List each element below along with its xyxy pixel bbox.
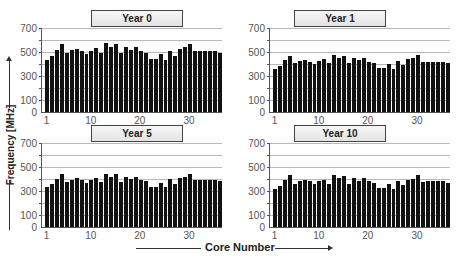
bar (288, 175, 292, 227)
bar (337, 58, 341, 112)
bar (159, 54, 163, 112)
y-tick-mark (267, 179, 270, 180)
bar (347, 63, 351, 112)
bar (342, 56, 346, 112)
y-tick-label: 300 (235, 186, 265, 197)
bar (129, 179, 133, 227)
bar (124, 47, 128, 112)
bar (303, 180, 307, 227)
bar (317, 61, 321, 112)
x-axis-label: Core Number (130, 241, 330, 255)
bar (134, 47, 138, 112)
bar (94, 48, 98, 112)
bar (313, 184, 317, 227)
bar (80, 51, 84, 112)
y-tick-mark (39, 76, 42, 77)
bar (411, 58, 415, 112)
y-tick-label: 700 (7, 138, 37, 149)
y-tick-mark (39, 203, 42, 204)
bar (85, 54, 89, 112)
bar (134, 177, 138, 227)
x-axis-label-line-right (275, 248, 330, 249)
bar (188, 174, 192, 227)
bar (401, 65, 405, 112)
bar (411, 179, 415, 227)
bar (273, 189, 277, 227)
x-tick-label: 30 (183, 115, 194, 126)
bar (149, 59, 153, 112)
y-tick-mark (267, 143, 270, 144)
bar (203, 180, 207, 227)
bar (55, 50, 59, 112)
y-tick-mark (267, 203, 270, 204)
y-tick-mark (39, 64, 42, 65)
bar (173, 184, 177, 227)
bar (208, 51, 212, 112)
bar (94, 178, 98, 227)
x-tick-label: 1 (272, 115, 278, 126)
bar (446, 63, 450, 112)
y-tick-mark (267, 155, 270, 156)
bar (119, 53, 123, 112)
bar (75, 178, 79, 227)
bar (342, 176, 346, 227)
bar (382, 68, 386, 112)
bar (278, 186, 282, 227)
bar (298, 181, 302, 227)
bar (178, 49, 182, 112)
bar (80, 180, 84, 227)
y-tick-mark (39, 167, 42, 168)
bar-series (273, 28, 450, 112)
y-tick-mark (39, 179, 42, 180)
bar (322, 59, 326, 112)
y-tick-mark (267, 76, 270, 77)
bar (293, 184, 297, 227)
bar (65, 53, 69, 112)
bar (436, 62, 440, 112)
bar (421, 182, 425, 227)
y-tick-mark (39, 215, 42, 216)
chart-title: Year 10 (294, 125, 386, 142)
bar (303, 60, 307, 112)
bar (85, 183, 89, 227)
bar (313, 64, 317, 112)
bar (99, 53, 103, 112)
y-tick-mark (267, 167, 270, 168)
bar (396, 181, 400, 227)
bar (421, 62, 425, 112)
y-tick-label: 700 (235, 23, 265, 34)
bar (178, 178, 182, 227)
bar (372, 183, 376, 227)
bar (322, 180, 326, 227)
bar (426, 181, 430, 227)
y-tick-mark (39, 100, 42, 101)
bar (213, 51, 217, 112)
y-tick-mark (267, 64, 270, 65)
bar (154, 187, 158, 227)
y-tick-label: 100 (7, 95, 37, 106)
chart-title: Year 0 (91, 10, 183, 27)
bar (426, 62, 430, 112)
y-tick-label: 100 (235, 95, 265, 106)
y-tick-label: 0 (235, 222, 265, 233)
bar (273, 69, 277, 112)
y-tick-label: 300 (7, 186, 37, 197)
y-tick-label: 100 (235, 210, 265, 221)
bar (50, 184, 54, 227)
x-tick-label: 30 (183, 230, 194, 241)
bar (362, 178, 366, 227)
bar (168, 179, 172, 227)
bar (308, 62, 312, 112)
bar (144, 181, 148, 227)
bar (114, 44, 118, 112)
bar (362, 58, 366, 112)
y-tick-label: 300 (235, 71, 265, 82)
bar (129, 50, 133, 112)
bar (377, 68, 381, 112)
bar (173, 56, 177, 112)
bar-series (45, 28, 222, 112)
y-tick-mark (39, 191, 42, 192)
bar (208, 180, 212, 227)
bar (293, 63, 297, 112)
x-tick-label: 20 (134, 230, 145, 241)
